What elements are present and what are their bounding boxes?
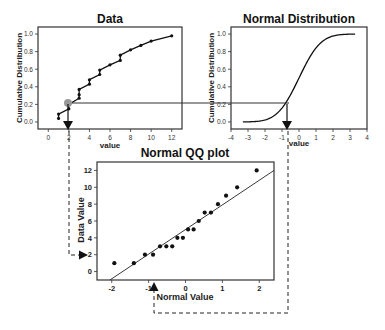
data-point <box>78 93 81 96</box>
qq-x-label: Normal Value <box>156 292 213 302</box>
normal-panel-title: Normal Distribution <box>243 12 355 26</box>
x-tick-label: -3 <box>245 134 251 141</box>
y-tick-label: 0.4 <box>24 83 33 90</box>
normal-y-axis: 0.00.20.40.60.81.0 <box>217 30 231 125</box>
qq-point <box>203 210 207 214</box>
qq-panel-frame <box>97 162 274 280</box>
normal-y-label: Cumulative Distribution <box>207 33 216 123</box>
qq-point <box>164 244 168 248</box>
qq-point <box>216 202 220 206</box>
x-tick-label: -1 <box>279 134 285 141</box>
data-panel: Data 0.00.20.40.60.81.0 024681012 value … <box>15 12 182 150</box>
qq-point <box>151 253 155 257</box>
data-x-label: value <box>100 141 121 150</box>
qq-point <box>170 244 174 248</box>
qq-point <box>186 227 190 231</box>
data-point <box>108 63 111 66</box>
qq-point <box>197 219 201 223</box>
x-tick-label: 1 <box>314 134 318 141</box>
x-tick-label: 10 <box>148 134 156 141</box>
data-point <box>88 83 91 86</box>
qq-point <box>158 244 162 248</box>
qq-point <box>132 261 136 265</box>
qq-point <box>181 236 185 240</box>
data-y-label: Cumulative Distribution <box>15 33 24 123</box>
y-tick-label: 1.0 <box>24 30 33 37</box>
data-y-axis: 0.00.20.40.60.81.0 <box>24 30 38 125</box>
y-tick-label: 0.0 <box>217 118 226 125</box>
data-point <box>119 54 122 57</box>
x-tick-label: 8 <box>129 134 133 141</box>
y-tick-label: 0.6 <box>217 66 226 73</box>
data-point <box>78 97 81 100</box>
qq-panel-title: Normal QQ plot <box>141 146 230 160</box>
qq-y-label: Data Value <box>76 197 86 243</box>
qq-point <box>224 194 228 198</box>
qq-scatter-points <box>112 168 259 265</box>
data-point <box>119 59 122 62</box>
y-tick-label: 8 <box>88 200 92 209</box>
y-tick-label: 0.6 <box>24 66 33 73</box>
x-tick-label: 3 <box>348 134 352 141</box>
y-tick-label: 2 <box>88 250 92 259</box>
x-tick-label: -2 <box>108 284 115 293</box>
data-point <box>170 34 173 37</box>
qq-point <box>143 253 147 257</box>
data-point <box>150 39 153 42</box>
qq-point <box>175 236 179 240</box>
x-tick-label: 6 <box>108 134 112 141</box>
x-tick-label: 2 <box>331 134 335 141</box>
data-point <box>57 112 60 115</box>
data-point <box>139 44 142 47</box>
data-point <box>78 88 81 91</box>
x-tick-label: 2 <box>257 284 261 293</box>
qq-point <box>209 210 213 214</box>
data-point <box>129 48 132 51</box>
x-tick-label: 1 <box>220 284 224 293</box>
x-tick-label: 0 <box>46 134 50 141</box>
data-point <box>88 78 91 81</box>
right-arrow-icon <box>79 251 88 260</box>
y-tick-label: 4 <box>88 234 93 243</box>
y-tick-label: 10 <box>84 183 92 192</box>
x-tick-label: -4 <box>228 134 234 141</box>
y-tick-label: 0 <box>88 267 92 276</box>
data-step-cdf <box>57 34 173 120</box>
y-tick-label: 1.0 <box>217 30 226 37</box>
normal-cdf-curve <box>243 34 355 122</box>
x-tick-label: 12 <box>168 134 176 141</box>
y-tick-label: 0.8 <box>217 48 226 55</box>
normal-x-label: value <box>289 139 310 148</box>
y-tick-label: 12 <box>84 166 92 175</box>
data-point <box>57 117 60 120</box>
qq-point <box>112 261 116 265</box>
data-x-axis: 024681012 <box>46 129 175 141</box>
y-tick-label: 0.4 <box>217 83 226 90</box>
data-panel-title: Data <box>97 12 123 26</box>
qq-panel: Normal QQ plot 024681012 -2-1012 Normal … <box>76 146 274 302</box>
y-tick-label: 6 <box>88 217 92 226</box>
qq-point <box>192 227 196 231</box>
cdf-line <box>59 36 172 119</box>
y-tick-label: 0.2 <box>24 101 33 108</box>
data-point <box>98 73 101 76</box>
qq-plot-explanatory-diagram: Data 0.00.20.40.60.81.0 024681012 value … <box>0 0 385 330</box>
y-tick-label: 0.2 <box>217 101 226 108</box>
y-tick-label: 0.8 <box>24 48 33 55</box>
x-tick-label: 4 <box>365 134 369 141</box>
qq-point <box>235 185 239 189</box>
qq-point <box>255 168 259 172</box>
x-tick-label: -2 <box>262 134 268 141</box>
y-tick-label: 0.0 <box>24 118 33 125</box>
x-tick-label: 4 <box>88 134 92 141</box>
data-point <box>98 68 101 71</box>
